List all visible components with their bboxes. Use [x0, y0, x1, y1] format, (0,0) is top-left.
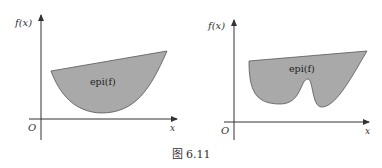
figure-canvas: f(x) x O epi(f) f(x) x O epi(f): [0, 0, 382, 168]
region-label: epi(f): [90, 76, 116, 87]
x-axis-label: x: [170, 123, 175, 133]
y-axis-label: f(x): [207, 20, 225, 31]
epigraph-nonconvex-region: [249, 51, 367, 107]
x-axis-label: x: [365, 126, 370, 136]
left-figure: f(x) x O epi(f): [14, 15, 177, 140]
region-label: epi(f): [289, 63, 315, 74]
y-axis-label: f(x): [14, 17, 32, 28]
figure-caption: 图 6.11: [0, 145, 382, 161]
origin-label: O: [28, 122, 36, 133]
origin-label: O: [221, 125, 229, 136]
right-figure: f(x) x O epi(f): [207, 20, 370, 140]
